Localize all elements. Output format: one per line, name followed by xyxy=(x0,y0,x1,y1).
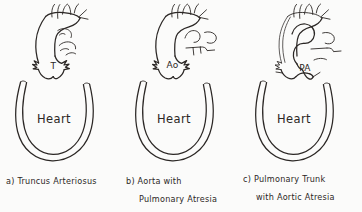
aorta-inner-wall-b xyxy=(175,18,200,56)
pulmonary-atresia-remnants-b xyxy=(185,31,216,55)
caption-c-line2: with Aortic Atresia xyxy=(256,192,335,202)
heart-tip-left-c xyxy=(261,81,267,83)
pulmonary-valve-sinuses-c xyxy=(275,61,320,79)
vessel-label-aorta: Ao xyxy=(167,60,179,70)
heart-label-b: Heart xyxy=(157,112,191,126)
arch-branch-vessels-a xyxy=(52,4,88,19)
figure-root: T Heart a) Truncus Arteriosus xyxy=(0,0,362,212)
caption-b-line2: Pulmonary Atresia xyxy=(139,194,217,204)
truncus-left-wall xyxy=(36,17,46,64)
heart-label-c: Heart xyxy=(277,112,311,126)
truncus-inner-wall xyxy=(55,18,80,56)
aorta-left-wall-b xyxy=(156,17,166,64)
heart-tip-left-a xyxy=(21,81,27,83)
diagram-canvas: T Heart a) Truncus Arteriosus xyxy=(0,0,362,212)
panel-aorta-pulmonary-atresia: Ao Heart b) Aorta with Pulmonary Atresia xyxy=(126,4,217,204)
pulmonary-trunk-branches-c xyxy=(292,24,341,64)
heart-tip-right-a xyxy=(83,83,89,85)
heart-label-a: Heart xyxy=(37,112,71,126)
heart-tip-right-c xyxy=(323,83,329,85)
heart-tip-right-b xyxy=(203,83,209,85)
caption-a-line1: a) Truncus Arteriosus xyxy=(6,176,97,186)
vessel-label-pulmonary-trunk: PA xyxy=(299,63,311,73)
caption-b-line1: b) Aorta with xyxy=(126,176,182,186)
caption-c-line1: c) Pulmonary Trunk xyxy=(243,174,326,184)
panel-truncus-arteriosus: T Heart a) Truncus Arteriosus xyxy=(6,4,97,186)
vessel-label-truncus: T xyxy=(49,61,56,71)
panel-pulmonary-trunk-aortic-atresia: PA Heart c) Pulmonary Trunk with Aortic … xyxy=(243,4,341,202)
arch-branch-vessels-c xyxy=(294,4,330,19)
heart-tip-left-b xyxy=(141,81,147,83)
pulmonary-branch-stubs-a xyxy=(58,29,76,55)
arch-branch-vessels-b xyxy=(172,4,208,19)
